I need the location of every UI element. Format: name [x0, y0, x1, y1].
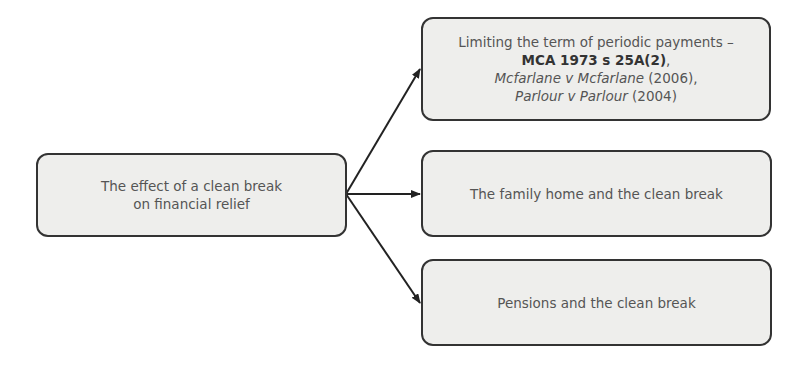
statute-reference-line: MCA 1973 s 25A(2), — [458, 51, 733, 69]
statute-reference: MCA 1973 s 25A(2) — [522, 52, 666, 68]
periodic-payments-heading: Limiting the term of periodic payments – — [458, 33, 733, 51]
case-mcfarlane-name: Mcfarlane v Mcfarlane — [494, 70, 644, 86]
family-home-node: The family home and the clean break — [421, 150, 772, 237]
case-mcfarlane-line: Mcfarlane v Mcfarlane (2006), — [458, 69, 733, 87]
root-node-line-1: The effect of a clean break — [101, 177, 282, 195]
statute-reference-suffix: , — [666, 52, 670, 68]
case-mcfarlane-year: (2006), — [644, 70, 697, 86]
root-node-line-2: on financial relief — [101, 195, 282, 213]
case-parlour-year: (2004) — [628, 88, 677, 104]
periodic-payments-node: Limiting the term of periodic payments –… — [421, 17, 771, 121]
case-parlour-name: Parlour v Parlour — [515, 88, 628, 104]
diagram-canvas: The effect of a clean break on financial… — [0, 0, 810, 367]
pensions-label: Pensions and the clean break — [497, 294, 695, 312]
case-parlour-line: Parlour v Parlour (2004) — [458, 87, 733, 105]
arrow-to-periodic-payments — [346, 69, 420, 194]
family-home-label: The family home and the clean break — [470, 185, 723, 203]
root-node: The effect of a clean break on financial… — [36, 153, 347, 237]
pensions-node: Pensions and the clean break — [421, 259, 772, 346]
arrow-to-pensions — [346, 194, 420, 303]
